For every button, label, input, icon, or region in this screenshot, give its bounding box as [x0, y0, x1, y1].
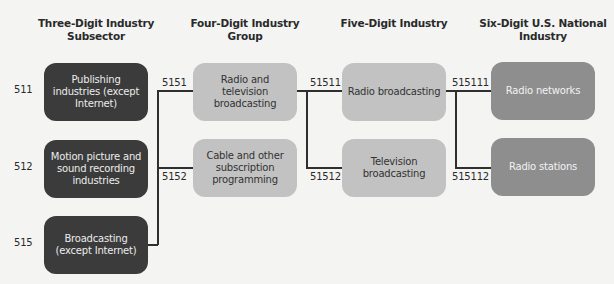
national-box-515112: Radio stations	[491, 138, 595, 196]
industry-code: 51511	[310, 77, 341, 88]
connector-line	[455, 90, 457, 168]
header-five-digit: Five-Digit Industry	[329, 17, 459, 30]
group-code: 5152	[162, 171, 187, 182]
subsector-label: Broadcasting (except Internet)	[48, 233, 144, 257]
header-three-digit: Three-Digit Industry Subsector	[31, 17, 161, 42]
connector-line	[455, 167, 491, 169]
subsector-code: 511	[14, 84, 33, 95]
national-box-515111: Radio networks	[491, 62, 595, 120]
industry-box-51512: Television broadcasting	[342, 139, 446, 197]
national-code: 515112	[452, 171, 489, 182]
connector-line	[446, 90, 491, 92]
subsector-box-515: Broadcasting (except Internet)	[44, 216, 148, 274]
industry-label: Radio broadcasting	[348, 86, 441, 98]
connector-line	[306, 167, 342, 169]
industry-label: Television broadcasting	[346, 156, 442, 180]
group-box-5152: Cable and other subscription programming	[193, 139, 297, 197]
group-label: Radio and television broadcasting	[197, 74, 293, 110]
header-six-digit: Six-Digit U.S. National Industry	[473, 17, 613, 42]
national-label: Radio networks	[506, 85, 580, 97]
subsector-box-512: Motion picture and sound recording indus…	[44, 140, 148, 198]
national-code: 515111	[452, 77, 489, 88]
industry-box-51511: Radio broadcasting	[342, 63, 446, 121]
connector-line	[157, 167, 193, 169]
connector-line	[157, 90, 193, 92]
subsector-code: 515	[14, 237, 33, 248]
header-four-digit: Four-Digit Industry Group	[180, 17, 310, 42]
group-label: Cable and other subscription programming	[197, 150, 293, 186]
subsector-code: 512	[14, 161, 33, 172]
subsector-box-511: Publishing industries (except Internet)	[44, 63, 148, 121]
national-label: Radio stations	[509, 161, 577, 173]
connector-line	[306, 90, 308, 168]
subsector-label: Publishing industries (except Internet)	[48, 74, 144, 110]
group-code: 5151	[162, 77, 187, 88]
industry-code: 51512	[310, 171, 341, 182]
connector-line	[297, 90, 342, 92]
subsector-label: Motion picture and sound recording indus…	[48, 151, 144, 187]
group-box-5151: Radio and television broadcasting	[193, 63, 297, 121]
